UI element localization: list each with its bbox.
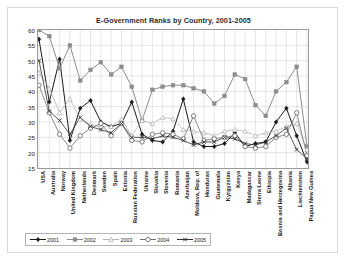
y-axis-tick-label: 55 <box>9 42 35 49</box>
y-axis-tick-label: 60 <box>9 27 35 34</box>
x-axis-tick-label: Albania <box>287 171 293 191</box>
x-axis-labels: USAAustraliaNorwayUnited KingdomNetherla… <box>37 171 309 237</box>
y-axis-tick-label: 45 <box>9 73 35 80</box>
x-axis-tick-label: Slovenia <box>163 171 169 194</box>
legend-marker-icon <box>30 236 46 243</box>
legend-label: 2003 <box>120 237 132 243</box>
legend-item[interactable]: 2004 <box>140 236 169 243</box>
x-axis-tick-label: Australia <box>50 171 56 195</box>
y-axis-tick-label: 50 <box>9 57 35 64</box>
x-axis-tick-label: Ukraine <box>143 171 149 192</box>
y-axis-tick-label: 30 <box>9 119 35 126</box>
legend-label: 2001 <box>47 237 59 243</box>
y-axis: 60555045403530252015 <box>8 29 35 169</box>
x-axis-tick-label: Norway <box>60 171 66 191</box>
x-axis-tick-label: Estonia <box>122 171 128 191</box>
x-axis-tick-label: Kenya <box>235 171 241 188</box>
x-axis-tick-label: Papua New Guinea <box>308 171 314 221</box>
plot-area <box>37 29 309 169</box>
legend-marker-icon <box>103 236 119 243</box>
x-axis-tick-label: Guatemala <box>215 171 221 200</box>
legend-item[interactable]: 2001 <box>30 236 59 243</box>
legend-label: 2002 <box>84 237 96 243</box>
x-axis-tick-label: Netherlands <box>81 171 87 203</box>
legend-label: 2004 <box>157 237 169 243</box>
x-axis-tick-label: Russian Federation <box>132 171 138 223</box>
y-axis-tick-label: 35 <box>9 103 35 110</box>
x-axis-tick-label: United Kingdom <box>70 171 76 214</box>
chart-title: E-Government Ranks by Country, 2001-2005 <box>8 16 339 25</box>
x-axis-tick-label: Slovakia <box>153 171 159 194</box>
y-axis-tick-label: 40 <box>9 88 35 95</box>
legend-item[interactable]: 2002 <box>67 236 96 243</box>
x-axis-tick-label: Azerbaijan <box>184 171 190 199</box>
legend-marker-icon <box>67 236 83 243</box>
x-axis-tick-label: Liechtenstein <box>297 171 303 207</box>
x-axis-tick-label: Sweden <box>101 171 107 192</box>
x-axis-tick-label: Ethiopia <box>266 171 272 193</box>
chart-frame: E-Government Ranks by Country, 2001-2005… <box>7 7 338 253</box>
legend-item[interactable]: 2005 <box>177 236 206 243</box>
legend-label: 2005 <box>194 237 206 243</box>
y-axis-tick-label: 25 <box>9 134 35 141</box>
x-axis-tick-label: Spain <box>112 171 118 186</box>
chart-legend: 20012002200320042005 <box>25 233 211 246</box>
x-axis-tick-label: Kyrgyzstan <box>225 171 231 201</box>
legend-marker-icon <box>140 236 156 243</box>
x-axis-tick-label: Sierra Leone <box>256 171 262 205</box>
x-axis-tick-label: Romania <box>174 171 180 195</box>
y-axis-tick-label: 20 <box>9 149 35 156</box>
x-axis-tick-label: Moldova, Rep. of <box>194 171 200 216</box>
y-axis-tick-label: 15 <box>9 165 35 172</box>
x-axis-tick-label: Bosnia and Herzegovina <box>277 171 283 236</box>
x-axis-tick-label: USA <box>40 171 46 183</box>
chart-svg <box>38 30 308 168</box>
x-axis-tick-label: Denmark <box>91 171 97 195</box>
x-axis-tick-label: Madagascar <box>246 171 252 203</box>
legend-item[interactable]: 2003 <box>103 236 132 243</box>
legend-marker-icon <box>177 236 193 243</box>
x-axis-tick-label: Honduras <box>204 171 210 197</box>
